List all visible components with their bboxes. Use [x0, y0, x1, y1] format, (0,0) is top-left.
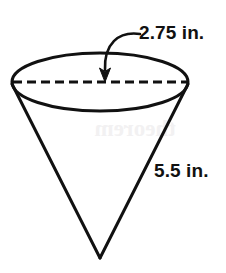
diameter-dimension-label: 2.75 in. [139, 23, 204, 42]
slant-height-dimension-label: 5.5 in. [154, 161, 209, 180]
cone-diagram-figure: theorem 2.75 in. 5.5 in. [0, 0, 226, 273]
